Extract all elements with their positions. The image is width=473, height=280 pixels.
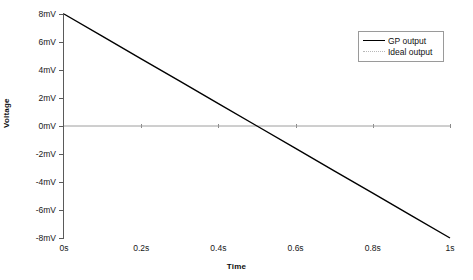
legend-item-ideal-output: Ideal output — [363, 46, 439, 57]
legend-swatch-dotted-line-icon — [363, 47, 385, 56]
voltage-vs-time-chart: Voltage 8mV6mV4mV2mV0mV-2mV-4mV-6mV-8mV … — [0, 0, 473, 280]
legend-label-ideal-output: Ideal output — [388, 47, 432, 57]
chart-legend: GP output Ideal output — [358, 31, 444, 62]
legend-swatch-solid-line-icon — [363, 36, 385, 45]
legend-item-gp-output: GP output — [363, 35, 439, 46]
legend-label-gp-output: GP output — [388, 36, 426, 46]
x-axis-title: Time — [0, 262, 473, 271]
